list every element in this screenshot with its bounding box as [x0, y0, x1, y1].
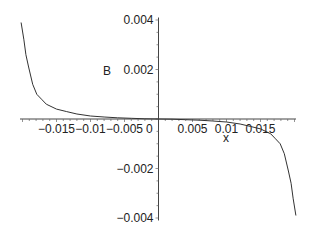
- y-tick-label: 0.002: [123, 63, 153, 77]
- x-tick-label: −0.01: [75, 122, 106, 136]
- x-tick-label: 0.005: [177, 122, 207, 136]
- y-tick-label: 0.004: [123, 13, 153, 27]
- y-tick-label: −0.004: [116, 211, 153, 225]
- x-tick-label: −0.015: [38, 122, 75, 136]
- chart: −0.015−0.01−0.0050.0050.010.015 0.0040.0…: [0, 0, 309, 235]
- y-tick-label: −0.002: [116, 162, 153, 176]
- x-axis-label: x: [223, 131, 229, 145]
- x-tick-label: −0.005: [106, 122, 143, 136]
- origin-label: 0: [146, 122, 153, 136]
- y-axis-label: B: [103, 64, 111, 78]
